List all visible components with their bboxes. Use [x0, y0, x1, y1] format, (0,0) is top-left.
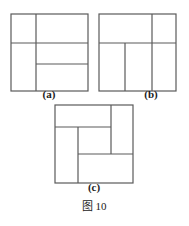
- figure-a: [11, 14, 88, 91]
- figure-panel: (a) (b) (c) 图 10: [0, 0, 189, 226]
- figure-label-b: (b): [132, 88, 170, 100]
- figure-label-a: (a): [30, 88, 68, 100]
- figure-b: [99, 14, 176, 91]
- figure-c: [55, 105, 133, 183]
- figure-a-outer-square: [11, 14, 88, 91]
- figure-label-c: (c): [75, 181, 113, 193]
- figure-b-outer-square: [99, 14, 176, 91]
- figure-c-outer-square: [55, 105, 133, 183]
- figure-caption: 图 10: [64, 200, 124, 213]
